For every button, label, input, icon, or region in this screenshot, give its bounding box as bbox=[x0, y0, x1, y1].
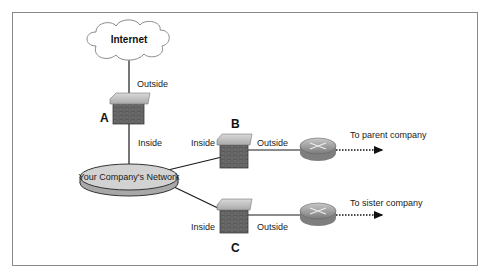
company-network-label: Your Company's Network bbox=[79, 172, 180, 182]
router-c-destination-label: To sister company bbox=[350, 198, 423, 208]
firewall-a-icon bbox=[110, 93, 150, 124]
firewall-a-outside-label: Outside bbox=[137, 79, 168, 89]
firewall-c-letter: C bbox=[231, 241, 240, 255]
firewall-a-letter: A bbox=[100, 111, 109, 125]
firewall-a-inside-label: Inside bbox=[138, 138, 162, 148]
router-b-destination-label: To parent company bbox=[350, 130, 427, 140]
firewall-c-icon bbox=[217, 199, 252, 233]
firewall-b-inside-label: Inside bbox=[191, 138, 215, 148]
router-b-icon bbox=[300, 138, 336, 161]
network-diagram: Internet A Outside Inside Your Company's… bbox=[0, 0, 488, 274]
firewall-b-letter: B bbox=[231, 117, 240, 131]
firewall-b-icon bbox=[217, 134, 252, 168]
internet-label: Internet bbox=[111, 34, 148, 45]
firewall-c-outside-label: Outside bbox=[257, 222, 288, 232]
firewall-c-inside-label: Inside bbox=[191, 222, 215, 232]
firewall-b-outside-label: Outside bbox=[257, 138, 288, 148]
router-c-icon bbox=[300, 203, 336, 226]
